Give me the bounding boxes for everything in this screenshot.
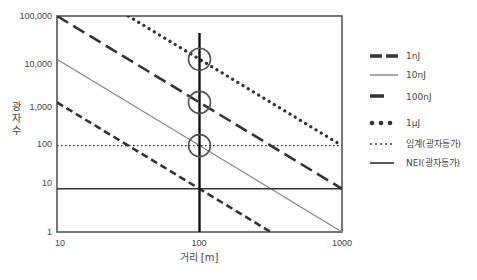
y-axis-label-char-2: 자 [12, 113, 21, 124]
svg-text:임계(광자등가): 임계(광자등가) [406, 138, 461, 149]
svg-text:10nJ: 10nJ [406, 70, 426, 80]
y-tick-1: 1 [47, 227, 52, 237]
legend-item-100nj: 100nJ [370, 92, 432, 102]
y-tick-100000: 100,000 [19, 11, 52, 21]
x-tick-100: 100 [191, 238, 206, 248]
y-axis-label-char-3: 수 [12, 125, 21, 136]
svg-text:1μJ: 1μJ [406, 118, 420, 128]
x-tick-10: 10 [55, 238, 65, 248]
legend-item-threshold: 임계(광자등가) [370, 138, 461, 149]
photon-count-chart: 100,000 10,000 1,000 100 10 1 10 100 100… [0, 0, 477, 280]
legend-item-nei: NEI(광자등가) [370, 157, 460, 168]
legend-item-1uj: 1μJ [370, 118, 420, 128]
legend-item-1nj: 1nJ [370, 51, 420, 61]
x-tick-1000: 1000 [332, 238, 352, 248]
y-axis-label-char-1: 광 [12, 101, 21, 112]
svg-text:100nJ: 100nJ [406, 92, 432, 102]
y-tick-100: 100 [37, 139, 52, 149]
svg-text:1nJ: 1nJ [406, 51, 420, 61]
y-tick-10: 10 [42, 178, 52, 188]
series-1μJ [128, 16, 342, 146]
legend-item-10nj: 10nJ [370, 70, 426, 80]
series-1nJ [57, 102, 271, 232]
y-tick-10000: 10,000 [24, 59, 52, 69]
svg-text:NEI(광자등가): NEI(광자등가) [406, 157, 460, 168]
y-tick-1000: 1,000 [29, 102, 52, 112]
x-axis-label: 거리 [m] [180, 252, 219, 263]
legend: 1nJ 10nJ 100nJ 1μJ 임계(광자등가) NEI(광자등가) [370, 51, 461, 168]
